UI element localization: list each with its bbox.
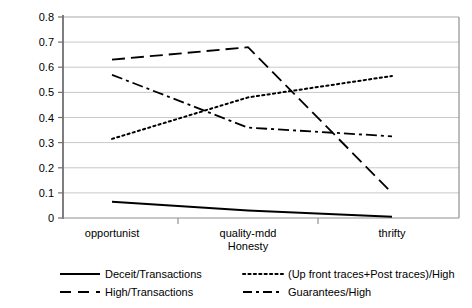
legend: Deceit/Transactions (Up front traces+Pos… <box>60 268 455 298</box>
x-category-label-quality-mdd: quality-mdd <box>220 227 277 239</box>
legend-label-upfront-post-traces-high: (Up front traces+Post traces)/High <box>288 268 455 280</box>
legend-label-high-transactions: High/Transactions <box>105 286 194 298</box>
y-tick-label-0.6: 0.6 <box>39 61 54 73</box>
x-axis-ticks <box>178 218 318 224</box>
y-tick-label-0.4: 0.4 <box>39 112 54 124</box>
x-category-label-opportunist: opportunist <box>85 227 139 239</box>
y-tick-label-0.7: 0.7 <box>39 36 54 48</box>
legend-label-deceit-transactions: Deceit/Transactions <box>105 268 202 280</box>
y-tick-label-0.2: 0.2 <box>39 162 54 174</box>
x-axis-title: Honesty <box>228 240 269 252</box>
line-chart: 0.8 0.7 0.6 0.5 0.4 0.3 0.2 0.1 0 opport… <box>0 0 472 308</box>
y-tick-label-0: 0 <box>48 212 54 224</box>
y-tick-label-0.8: 0.8 <box>39 11 54 23</box>
y-tick-label-0.3: 0.3 <box>39 137 54 149</box>
x-category-label-thrifty: thrifty <box>379 227 406 239</box>
legend-label-guarantees-high: Guarantees/High <box>288 286 371 298</box>
y-tick-label-0.5: 0.5 <box>39 86 54 98</box>
y-tick-label-0.1: 0.1 <box>39 187 54 199</box>
chart-container: 0.8 0.7 0.6 0.5 0.4 0.3 0.2 0.1 0 opport… <box>0 0 472 308</box>
